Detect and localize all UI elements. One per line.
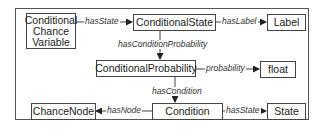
node-conditional-probability: ConditionalProbability [96,60,196,77]
node-label: float [268,64,288,75]
edge-label-hasState-2: hasState [225,106,261,115]
edge-label-probability: probability [205,64,246,73]
node-label: ConditionalProbability [95,63,197,74]
node-float: float [260,61,296,78]
node-label-line: Chance [33,26,69,37]
node-label-line: Variable [32,37,70,48]
node-condition: Condition [152,103,223,120]
edge-label-hasNode: hasNode [106,106,142,115]
edge-label-hasState-1: hasState [84,17,120,26]
edge-label-hasLabel: hasLabel [221,17,258,26]
node-chance-node: ChanceNode [31,103,96,120]
node-conditional-state: ConditionalState [133,14,216,31]
node-label: ConditionalState [136,17,213,28]
node-label: ChanceNode [33,106,94,117]
node-label-line: Conditional [25,15,78,26]
node-label: Condition [165,106,209,117]
node-label-class: Label [267,14,306,31]
edge-label-hasCondition: hasCondition [151,87,203,96]
edge-label-hasConditionProbability: hasConditionProbability [117,40,208,49]
node-conditional-chance-variable: Conditional Chance Variable [26,13,76,49]
node-label: Label [274,17,300,28]
node-label: State [274,106,299,117]
node-state: State [267,103,306,120]
